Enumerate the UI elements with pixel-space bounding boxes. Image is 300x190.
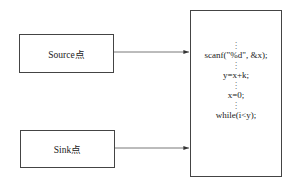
sink-node: Sink点 [20,130,115,168]
diagram-canvas: Source点 Sink点 ··· scanf("%d", &x); ··· y… [0,0,300,190]
ellipsis-vertical-icon: ··· [235,61,238,70]
code-line-while: while(i<y); [216,110,257,121]
sink-node-label: Sink点 [54,142,81,156]
code-node: ··· scanf("%d", &x); ··· y=x+k; ··· x=0;… [190,10,282,177]
ellipsis-vertical-icon: ··· [235,41,238,50]
ellipsis-vertical-icon: ··· [235,81,238,90]
ellipsis-vertical-icon: ··· [235,101,238,110]
source-node: Source点 [19,34,114,73]
source-node-label: Source点 [48,47,84,61]
